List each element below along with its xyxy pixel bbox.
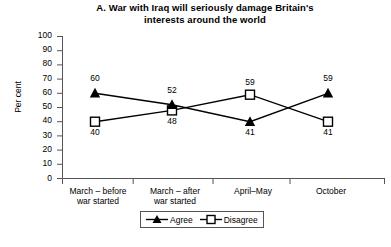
data-label-agree-4: 59	[317, 74, 339, 83]
x-tick-marks	[63, 179, 385, 185]
y-tick-marks	[57, 37, 63, 179]
x-tick-label-3: April–May	[215, 186, 291, 196]
data-label-disagree-4: 41	[317, 128, 339, 137]
data-label-agree-3: 41	[239, 128, 261, 137]
x-tick-label-1: March – before war started	[60, 186, 136, 206]
data-label-disagree-2: 48	[161, 117, 183, 126]
data-label-agree-1: 60	[84, 74, 106, 83]
series-markers-disagree	[91, 90, 333, 126]
chart-figure: A. War with Iraq will seriously damage B…	[0, 0, 391, 247]
open-square-marker-icon	[200, 214, 222, 225]
data-label-disagree-1: 40	[84, 128, 106, 137]
series-markers-agree	[90, 88, 333, 126]
data-label-agree-2: 52	[161, 86, 183, 95]
plot-area	[0, 0, 391, 247]
filled-triangle-marker-icon	[146, 214, 168, 225]
x-tick-label-2: March – after war started	[137, 186, 213, 206]
data-label-disagree-3: 59	[239, 78, 261, 87]
legend-item-agree[interactable]: Agree	[146, 214, 193, 225]
chart-legend: Agree Disagree	[140, 211, 264, 228]
legend-label-agree: Agree	[170, 215, 193, 225]
series-line-agree	[95, 93, 328, 121]
legend-label-disagree: Disagree	[224, 215, 258, 225]
x-tick-label-4: October	[293, 186, 369, 196]
legend-item-disagree[interactable]: Disagree	[200, 214, 258, 225]
